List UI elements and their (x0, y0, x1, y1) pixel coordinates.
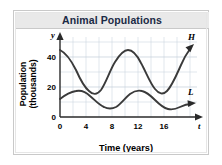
page-title: Animal Populations (62, 14, 162, 26)
curve-l (60, 91, 191, 110)
x-tick-label-16: 16 (160, 122, 169, 131)
grid-horizontal (60, 42, 197, 102)
curve-h-label: H (187, 32, 196, 42)
chart-title-bar: Animal Populations (15, 12, 209, 29)
x-tick-label-0: 0 (58, 122, 63, 131)
y-tick-label-40: 40 (47, 53, 56, 62)
plot-area: Population (thousands) (15, 29, 209, 154)
curve-l-arrow (188, 100, 197, 107)
y-axis-symbol: y (50, 30, 55, 40)
y-axis-title: Population (thousands) (16, 41, 42, 127)
y-tick-label-20: 20 (47, 83, 56, 92)
grid-vertical (73, 37, 190, 117)
x-tick-label-4: 4 (84, 122, 89, 131)
x-tick-label-12: 12 (134, 122, 143, 131)
x-axis-symbol: t (198, 121, 201, 131)
chart-svg: y t 0 20 40 0 4 8 12 16 H L (45, 29, 209, 139)
x-axis-arrow (195, 113, 203, 120)
x-tick-label-8: 8 (110, 122, 115, 131)
y-tick-label-0: 0 (52, 113, 57, 122)
curve-l-label: L (187, 87, 194, 97)
y-axis-title-line2: (thousands) (29, 59, 39, 108)
x-axis-title: Time (years) (51, 143, 201, 153)
y-axis-arrow (56, 32, 63, 40)
figure-frame: Animal Populations Population (thousands… (13, 10, 209, 155)
